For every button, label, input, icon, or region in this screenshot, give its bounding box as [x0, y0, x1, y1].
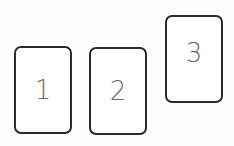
- card-1[interactable]: 1: [14, 46, 72, 134]
- card-2[interactable]: 2: [89, 47, 147, 135]
- card-3[interactable]: 3: [165, 15, 223, 103]
- card-1-number: 1: [35, 77, 52, 103]
- card-2-number: 2: [110, 78, 127, 104]
- card-3-number: 3: [186, 40, 203, 66]
